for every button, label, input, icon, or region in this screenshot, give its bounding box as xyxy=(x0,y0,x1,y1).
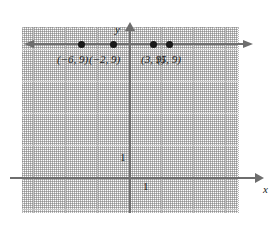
grid-minor-vertical-line xyxy=(222,27,223,213)
y-axis-arrow-icon xyxy=(125,22,135,31)
grid-minor-vertical-line xyxy=(214,27,215,213)
grid-major-vertical-line xyxy=(33,27,34,213)
grid-minor-vertical-line xyxy=(38,27,39,213)
x-axis-label: x xyxy=(263,184,268,195)
data-point-label: (−6, 9) xyxy=(57,54,88,65)
x-axis-line xyxy=(10,177,258,179)
y-axis-label: y xyxy=(115,24,120,35)
grid-minor-vertical-line xyxy=(30,27,31,213)
y-axis-line xyxy=(129,30,131,213)
x-axis-arrow-icon xyxy=(255,173,264,183)
grid-minor-vertical-line xyxy=(22,27,23,213)
grid-minor-vertical-line xyxy=(182,27,183,213)
data-point xyxy=(78,41,85,48)
grid-minor-vertical-line xyxy=(238,27,239,213)
plot-line-right-arrow-icon xyxy=(243,40,253,48)
grid-minor-vertical-line xyxy=(46,27,47,213)
data-point-label: (−2, 9) xyxy=(89,54,120,65)
coordinate-plane-graph: (−6, 9)(−2, 9)(3, 9)(5, 9) y x 1 1 xyxy=(0,0,275,228)
grid-major-vertical-line xyxy=(225,27,226,213)
plot-line xyxy=(33,43,245,45)
data-point-label: (5, 9) xyxy=(157,54,181,65)
x-axis-tick-label-1: 1 xyxy=(143,181,149,192)
grid-minor-vertical-line xyxy=(230,27,231,213)
grid-minor-vertical-line xyxy=(54,27,55,213)
grid-minor-vertical-line xyxy=(190,27,191,213)
data-point xyxy=(166,41,173,48)
grid-minor-vertical-line xyxy=(198,27,199,213)
data-point xyxy=(150,41,157,48)
y-axis-tick-label-1: 1 xyxy=(120,152,126,163)
grid-major-vertical-line xyxy=(193,27,194,213)
grid-minor-vertical-line xyxy=(206,27,207,213)
data-point xyxy=(110,41,117,48)
grid-minor-vertical-line xyxy=(126,27,127,213)
grid-minor-vertical-line xyxy=(134,27,135,213)
